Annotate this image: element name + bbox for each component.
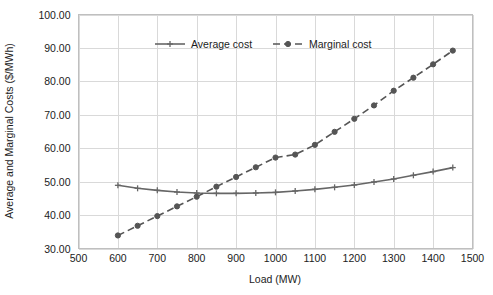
x-tick-labels-group: 500600700800900100011001200130014001500 [70, 252, 485, 264]
y-tick-label: 50.00 [44, 176, 70, 188]
gridlines-group [79, 15, 474, 250]
x-tick-label: 1200 [343, 252, 367, 264]
data-point [371, 103, 376, 108]
y-tick-label: 70.00 [44, 109, 70, 121]
data-point [431, 62, 436, 67]
series-group [115, 48, 456, 238]
data-point [450, 48, 455, 53]
x-tick-label: 500 [70, 252, 88, 264]
y-tick-labels-group: 30.0040.0050.0060.0070.0080.0090.00100.0… [38, 9, 70, 255]
data-point [214, 184, 219, 189]
x-tick-label: 1000 [264, 252, 288, 264]
x-tick-label: 700 [149, 252, 167, 264]
data-point [135, 185, 141, 191]
y-axis-title: Average and Marginal Costs ($/MWh) [3, 43, 15, 218]
data-point [273, 189, 279, 195]
data-point [391, 176, 397, 182]
x-tick-label: 900 [227, 252, 245, 264]
data-point [155, 213, 160, 218]
data-point [332, 129, 337, 134]
data-point [233, 190, 239, 196]
x-tick-label: 1500 [461, 252, 485, 264]
series-line [118, 51, 453, 236]
series-marginal-cost [115, 48, 455, 238]
data-point [312, 186, 318, 192]
data-point [115, 182, 121, 188]
y-tick-label: 30.00 [44, 243, 70, 255]
data-point [292, 188, 298, 194]
legend-label: Average cost [191, 38, 252, 50]
y-tick-label: 80.00 [44, 75, 70, 87]
data-point [450, 165, 456, 171]
data-point [332, 184, 338, 190]
data-point [293, 152, 298, 157]
data-point [213, 190, 219, 196]
y-tick-label: 60.00 [44, 142, 70, 154]
data-point [174, 204, 179, 209]
x-axis-title: Load (MW) [249, 273, 301, 285]
data-point [430, 169, 436, 175]
cost-curves-chart: 500600700800900100011001200130014001500 … [0, 0, 493, 295]
data-point [312, 142, 317, 147]
legend-marker [285, 41, 290, 46]
data-point [154, 187, 160, 193]
x-tick-label: 1400 [421, 252, 445, 264]
x-tick-label: 1100 [304, 252, 327, 264]
y-tick-label: 40.00 [44, 209, 70, 221]
x-tick-label: 600 [109, 252, 127, 264]
data-point [253, 190, 259, 196]
data-point [174, 189, 180, 195]
data-point [371, 179, 377, 185]
chart-container: 500600700800900100011001200130014001500 … [0, 0, 493, 295]
series-line [118, 168, 453, 194]
data-point [234, 174, 239, 179]
data-point [411, 75, 416, 80]
data-point [253, 165, 258, 170]
data-point [352, 116, 357, 121]
legend-label: Marginal cost [309, 38, 372, 50]
plot-frame [79, 15, 473, 249]
series-average-cost [115, 165, 456, 197]
data-point [135, 223, 140, 228]
x-tick-label: 800 [188, 252, 206, 264]
data-point [391, 88, 396, 93]
data-point [115, 233, 120, 238]
y-tick-label: 100.00 [38, 9, 70, 21]
y-tick-label: 90.00 [44, 42, 70, 54]
legend-marker [167, 41, 173, 47]
data-point [273, 155, 278, 160]
data-point [194, 194, 199, 199]
x-tick-label: 1300 [382, 252, 406, 264]
data-point [410, 172, 416, 178]
